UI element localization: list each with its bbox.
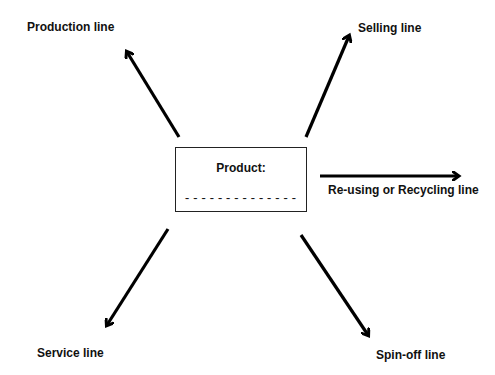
label-selling-line: Selling line [358, 21, 421, 35]
label-spin-off-line: Spin-off line [376, 348, 445, 362]
arrow-selling [306, 36, 349, 137]
arrow-production [127, 52, 179, 137]
label-production-line: Production line [27, 20, 114, 34]
product-lines-diagram: Product: -------------- Production line … [0, 0, 495, 375]
product-box: Product: -------------- [175, 147, 307, 212]
arrow-service [107, 229, 168, 325]
label-recycling-line: Re-using or Recycling line [328, 183, 479, 197]
product-title: Product: [176, 161, 306, 175]
arrow-spin-off [301, 235, 368, 335]
label-service-line: Service line [37, 346, 104, 360]
product-name-blank: -------------- [176, 192, 306, 206]
